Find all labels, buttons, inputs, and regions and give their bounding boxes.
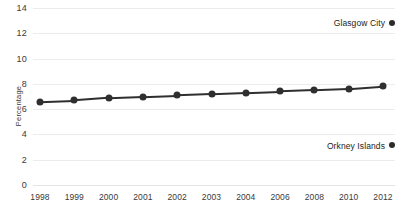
gridline: [33, 109, 395, 110]
line-segment: [177, 93, 211, 96]
legend-marker-icon: [389, 142, 395, 148]
gridline: [33, 160, 395, 161]
gridline: [33, 59, 395, 60]
x-tick-label: 2004: [236, 192, 255, 202]
x-tick-label: 2001: [133, 192, 152, 202]
gridline: [33, 33, 395, 34]
line-segment: [40, 99, 74, 102]
line-chart: Percentage 02468101214 Glasgow CityOrkne…: [0, 0, 403, 212]
plot-area: Glasgow CityOrkney Islands: [33, 8, 395, 185]
y-tick-label: 6: [22, 104, 27, 114]
data-point[interactable]: [242, 89, 249, 96]
line-segment: [246, 91, 280, 94]
legend-item: Glasgow City: [334, 17, 395, 28]
line-segment: [143, 94, 177, 97]
x-tick-label: 2000: [99, 192, 118, 202]
data-point[interactable]: [37, 98, 44, 105]
y-tick-label: 2: [22, 155, 27, 165]
line-segment: [109, 96, 143, 99]
line-segment: [280, 89, 314, 92]
x-tick-label: 2012: [373, 192, 392, 202]
x-tick-label: 1998: [30, 192, 49, 202]
data-point[interactable]: [380, 83, 387, 90]
data-point[interactable]: [311, 87, 318, 94]
gridline: [33, 134, 395, 135]
x-axis-ticks: 1998199920002001200220032004200620082010…: [33, 192, 395, 206]
x-tick-label: 1999: [65, 192, 84, 202]
line-segment: [349, 86, 383, 90]
data-point[interactable]: [139, 93, 146, 100]
x-tick-label: 2006: [270, 192, 289, 202]
x-tick-label: 2003: [202, 192, 221, 202]
data-point[interactable]: [345, 85, 352, 92]
data-point[interactable]: [277, 88, 284, 95]
x-tick-label: 2002: [168, 192, 187, 202]
line-segment: [74, 97, 108, 101]
gridline: [33, 8, 395, 9]
gridline: [33, 84, 395, 85]
data-point[interactable]: [71, 97, 78, 104]
y-tick-label: 0: [22, 180, 27, 190]
y-tick-label: 8: [22, 79, 27, 89]
line-segment: [314, 88, 348, 91]
y-axis-ticks: 02468101214: [0, 8, 27, 185]
legend-item: Orkney Islands: [327, 140, 395, 151]
x-tick-label: 2010: [339, 192, 358, 202]
data-point[interactable]: [208, 90, 215, 97]
legend-label: Orkney Islands: [327, 140, 385, 150]
data-point[interactable]: [174, 92, 181, 99]
axis-baseline: [33, 185, 395, 186]
legend-marker-icon: [389, 20, 395, 26]
legend-label: Glasgow City: [334, 18, 385, 28]
line-segment: [211, 92, 245, 95]
y-tick-label: 4: [22, 129, 27, 139]
data-point[interactable]: [105, 94, 112, 101]
x-tick-label: 2008: [305, 192, 324, 202]
y-tick-label: 14: [17, 3, 27, 13]
y-tick-label: 12: [17, 28, 27, 38]
y-tick-label: 10: [17, 54, 27, 64]
